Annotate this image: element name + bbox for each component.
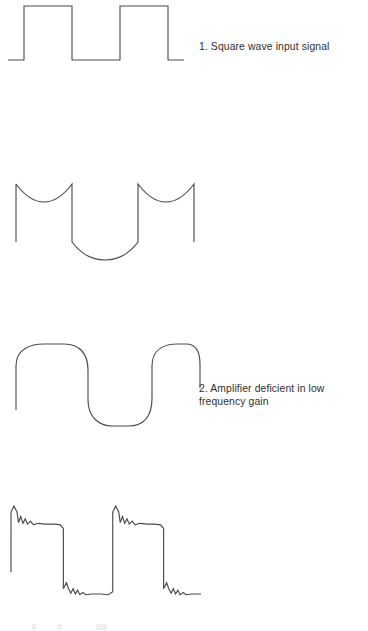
square-wave-path (8, 6, 184, 60)
low-frequency-deficient-path (16, 184, 194, 260)
excessive-low-frequency-trace (8, 336, 208, 441)
trace-3-graphic (8, 336, 208, 441)
trace-4-graphic (8, 500, 208, 600)
waveform-row-4: 4. Amplifier with excessive high frequen… (0, 500, 368, 631)
square-wave-trace (8, 0, 193, 80)
excessive-high-frequency-trace (8, 500, 204, 600)
waveform-row-1: 1. Square wave input signal (0, 0, 368, 170)
trace-2-graphic (8, 178, 208, 273)
caption-1: 1. Square wave input signal (199, 40, 364, 53)
waveform-row-2: 2. Amplifier deficient in low frequency … (0, 178, 368, 328)
low-frequency-deficient-trace (8, 178, 203, 273)
page-edge-artifact (22, 624, 182, 630)
waveform-figure: 1. Square wave input signal 2. Amplifier… (0, 0, 368, 631)
trace-1-graphic (8, 0, 208, 80)
excessive-high-frequency-path (11, 506, 201, 595)
excessive-low-frequency-path (16, 344, 200, 426)
waveform-row-3: 3. Amplifier with excessive low frequenc… (0, 336, 368, 496)
